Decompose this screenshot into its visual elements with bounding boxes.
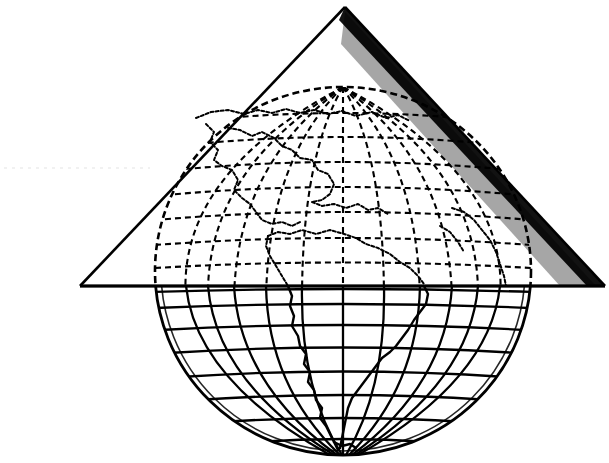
conic-projection-figure	[0, 0, 609, 463]
conic-projection-drawing	[0, 0, 609, 463]
